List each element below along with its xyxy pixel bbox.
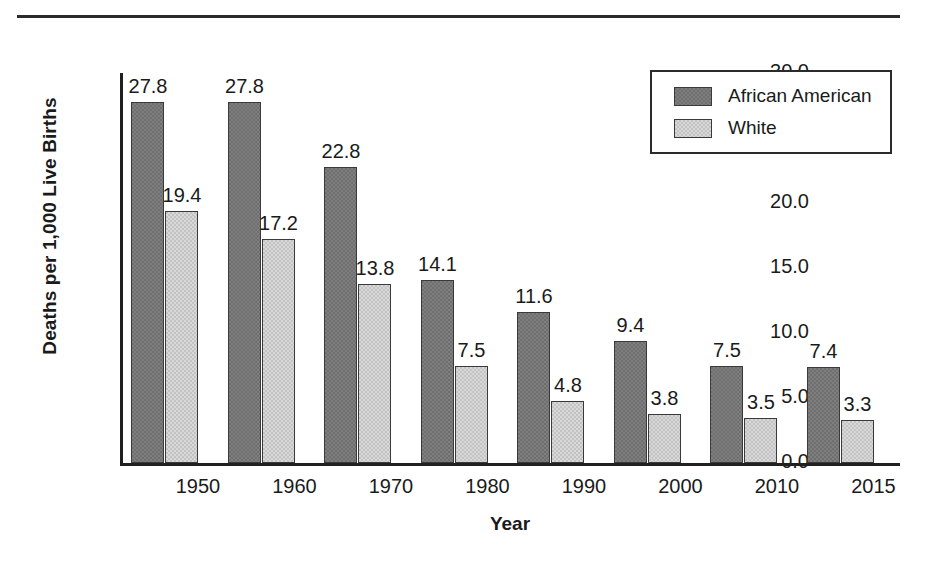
x-axis-tick-label: 1950 [148, 475, 248, 498]
bar-group: 14.17.5 [421, 73, 488, 463]
legend-label: African American [728, 85, 872, 107]
bar-group: 11.64.8 [517, 73, 584, 463]
chart-figure: Deaths per 1,000 Live Births 30.025.020.… [0, 0, 937, 583]
x-axis-tick-label: 2015 [824, 475, 924, 498]
bar-value-label: 3.8 [634, 387, 696, 410]
x-axis-title: Year [120, 513, 900, 535]
bar-value-label: 9.4 [600, 314, 662, 337]
bar-value-label: 22.8 [310, 140, 372, 163]
bar-african-american [710, 366, 743, 464]
bar-white [262, 239, 295, 463]
legend-swatch-icon [674, 119, 712, 138]
bar-african-american [421, 280, 454, 463]
chart-legend: African American White [650, 70, 892, 154]
bar-value-label: 14.1 [407, 253, 469, 276]
bar-value-label: 13.8 [344, 257, 406, 280]
legend-swatch-icon [674, 87, 712, 106]
bar-white [744, 418, 777, 464]
x-axis-tick-label: 1990 [534, 475, 634, 498]
bar-african-american [324, 167, 357, 463]
bar-value-label: 3.5 [730, 391, 792, 414]
bar-value-label: 11.6 [503, 285, 565, 308]
bar-value-label: 7.5 [696, 339, 758, 362]
bar-white [165, 211, 198, 463]
bar-value-label: 27.8 [117, 75, 179, 98]
bar-african-american [228, 102, 261, 463]
bar-value-label: 7.5 [441, 339, 503, 362]
bar-value-label: 7.4 [793, 340, 855, 363]
bar-group: 27.819.4 [131, 73, 198, 463]
legend-entry-african-american: African American [674, 84, 872, 108]
bar-group: 27.817.2 [228, 73, 295, 463]
bar-group: 22.813.8 [324, 73, 391, 463]
bar-african-american [131, 102, 164, 463]
x-axis-tick-label: 1970 [341, 475, 441, 498]
bar-white [648, 414, 681, 463]
x-axis-line [120, 463, 900, 466]
x-axis-tick-label: 2000 [631, 475, 731, 498]
bar-value-label: 3.3 [827, 393, 889, 416]
bar-value-label: 4.8 [537, 374, 599, 397]
legend-label: White [728, 117, 777, 139]
y-axis-title: Deaths per 1,000 Live Births [39, 26, 61, 426]
x-axis-tick-label: 1980 [438, 475, 538, 498]
bar-value-label: 17.2 [248, 212, 310, 235]
y-axis-line [120, 73, 123, 463]
legend-entry-white: White [674, 116, 777, 140]
top-horizontal-rule [17, 15, 900, 18]
bar-value-label: 19.4 [151, 184, 213, 207]
x-axis-tick-label: 1960 [245, 475, 345, 498]
bar-white [358, 284, 391, 463]
x-axis-tick-label: 2010 [727, 475, 827, 498]
bar-white [841, 420, 874, 463]
bar-white [551, 401, 584, 463]
bar-white [455, 366, 488, 464]
bar-value-label: 27.8 [214, 75, 276, 98]
